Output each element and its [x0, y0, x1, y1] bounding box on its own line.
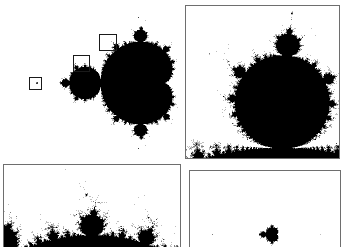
zoom-cardioid-bulb-antenna-canvas [186, 6, 339, 158]
zoom-period2-bulb-top-canvas [4, 165, 180, 247]
zoom-box-antenna-midget [29, 77, 42, 90]
panel-zoom-bottom-right [189, 170, 341, 247]
panel-overview [0, 0, 184, 162]
zoom-antenna-midget-canvas [190, 171, 340, 247]
mandelbrot-overview-canvas [0, 0, 184, 162]
figure-root [0, 0, 341, 247]
zoom-box-period2-bulb-top [73, 55, 90, 72]
panel-zoom-bottom-left [3, 164, 181, 247]
zoom-box-cardioid-bulb [99, 34, 117, 51]
panel-zoom-top-right [185, 5, 340, 159]
